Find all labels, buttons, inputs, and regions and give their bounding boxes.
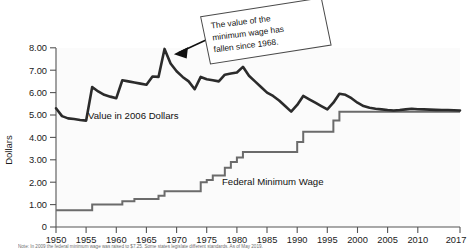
y-tick-label: 2.00 bbox=[29, 178, 47, 188]
y-axis-ticks: 0 1.00 2.00 3.00 4.00 5.00 6.00 7.00 8.0… bbox=[29, 43, 56, 232]
series-label-real: Value in 2006 Dollars bbox=[88, 110, 179, 121]
y-axis-title: Dollars bbox=[3, 135, 14, 165]
y-tick-label: 3.00 bbox=[29, 155, 47, 165]
y-tick-label: 4.00 bbox=[29, 133, 47, 143]
y-tick-label: 5.00 bbox=[29, 110, 47, 120]
plot-background bbox=[56, 48, 460, 227]
y-tick-label: 8.00 bbox=[29, 43, 47, 53]
x-axis-ticks: 1950 1955 1960 1965 1970 1975 1980 1985 … bbox=[46, 227, 467, 245]
y-tick-label: 1.00 bbox=[29, 200, 47, 210]
series-label-nominal: Federal Minimum Wage bbox=[222, 176, 323, 187]
y-tick-label: 7.00 bbox=[29, 66, 47, 76]
chart-footnote: Note: In 2009 the federal minimum wage w… bbox=[18, 244, 462, 250]
y-tick-label: 6.00 bbox=[29, 88, 47, 98]
minimum-wage-chart-figure: Dollars 0 1.00 2.00 3.00 4.00 5.00 6.00 … bbox=[0, 0, 468, 252]
chart-svg: Dollars 0 1.00 2.00 3.00 4.00 5.00 6.00 … bbox=[0, 0, 468, 252]
y-tick-label: 0 bbox=[42, 222, 47, 232]
